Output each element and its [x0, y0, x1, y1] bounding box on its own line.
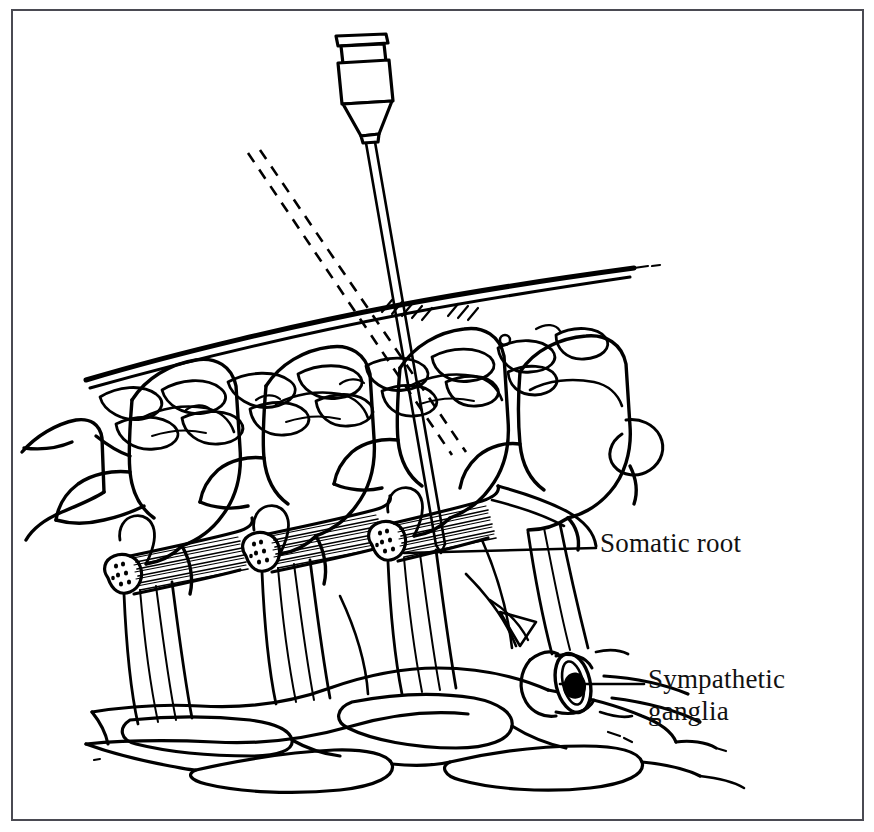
figure-root: Somatic root Sympathetic ganglia [0, 0, 874, 832]
sympathetic-ganglion-cut-end [521, 650, 632, 742]
skin-surface [86, 265, 660, 388]
somatic-nerve-roots [105, 486, 596, 594]
sympathetic-chain [86, 668, 744, 792]
nerve-root-stump-left [105, 518, 253, 594]
label-sympathetic-ganglia: Sympathetic ganglia [648, 664, 785, 728]
label-leader-lines [404, 548, 644, 684]
label-somatic-root: Somatic root [600, 528, 741, 560]
needle-assembly [336, 34, 445, 553]
